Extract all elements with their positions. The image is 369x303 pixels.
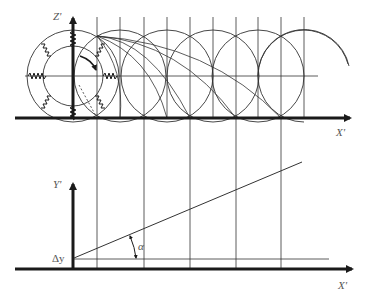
- angle-label: α: [138, 240, 144, 252]
- top-panel: Z' X': [15, 10, 350, 269]
- x-axis-bottom-label: X': [337, 279, 348, 291]
- slope-line: [74, 162, 302, 258]
- angle-arc: [130, 236, 136, 258]
- bottom-panel: Y' Δy α X': [15, 162, 352, 291]
- offset-label: Δy: [52, 252, 65, 264]
- rotation-arrow: [80, 56, 96, 70]
- y-axis-label: Y': [53, 178, 62, 190]
- projection-lines: [97, 17, 304, 269]
- x-axis-top-label: X': [335, 126, 346, 138]
- z-axis-label: Z': [53, 10, 62, 22]
- trajectory-arcs: [97, 36, 281, 118]
- rolling-ring-diagram: Z' X' Y' Δy α X': [0, 0, 369, 303]
